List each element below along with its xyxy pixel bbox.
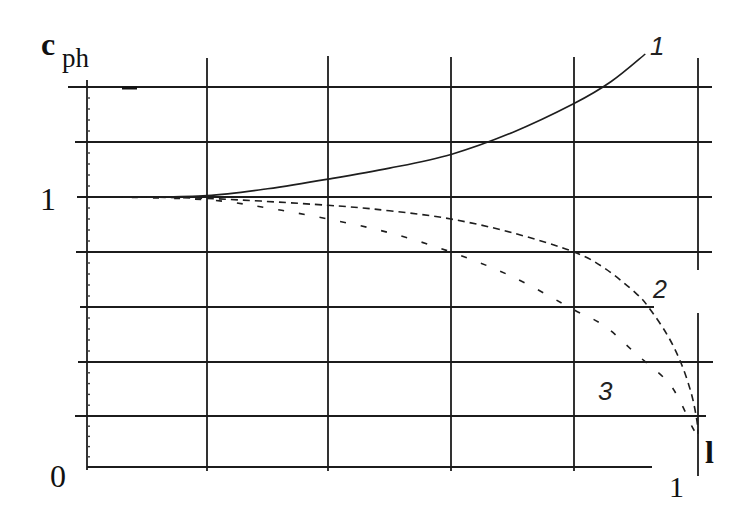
chart-figure: c ph 1 0 1 l 1 2 3: [0, 0, 751, 524]
x-axis-label: l: [705, 434, 714, 470]
y-axis-label-subscript: ph: [62, 43, 90, 73]
x-tick-label-1: 1: [669, 470, 684, 503]
y-axis-label-main: c: [41, 26, 55, 62]
gridlines: [68, 56, 713, 476]
y-tick-label-1: 1: [40, 181, 56, 217]
curve-label-1: 1: [650, 31, 664, 61]
curve-label-3: 3: [598, 376, 613, 406]
curve-label-2: 2: [652, 275, 667, 303]
origin-tick-label-0: 0: [50, 458, 66, 494]
curve-1: [111, 54, 645, 197]
